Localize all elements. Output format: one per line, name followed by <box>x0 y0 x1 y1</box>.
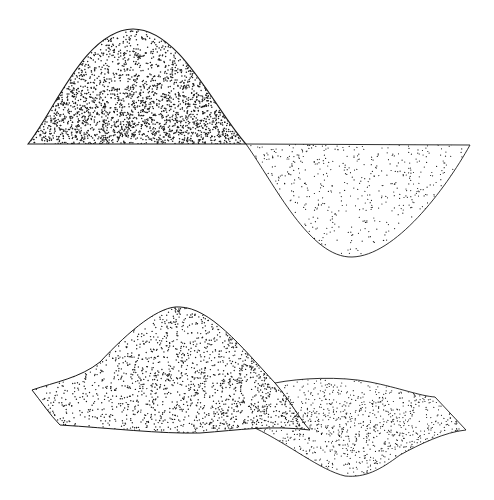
positive-lobe-stipple <box>27 28 246 144</box>
wave-surface-figure <box>31 304 466 478</box>
sine-wave-figure <box>27 28 470 257</box>
illustration-canvas <box>0 0 494 500</box>
negative-lobe-outline <box>246 144 470 257</box>
negative-lobe-stipple <box>246 144 471 258</box>
stipple-illustration <box>0 0 494 500</box>
